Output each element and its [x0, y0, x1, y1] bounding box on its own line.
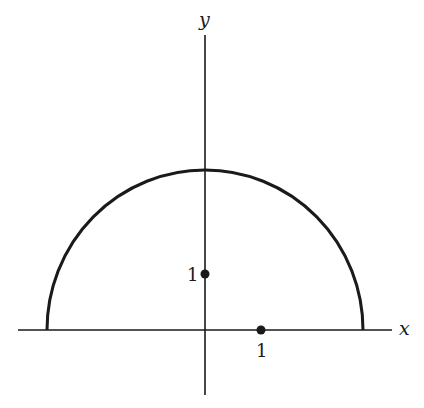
semicircle-diagram: y x 1 1: [0, 0, 424, 408]
y-unit-label: 1: [187, 264, 198, 285]
y-axis-label: y: [198, 8, 210, 30]
x-unit-point: [257, 326, 266, 335]
x-axis-label: x: [399, 317, 410, 339]
x-unit-label: 1: [256, 340, 267, 361]
y-unit-point: [201, 270, 210, 279]
